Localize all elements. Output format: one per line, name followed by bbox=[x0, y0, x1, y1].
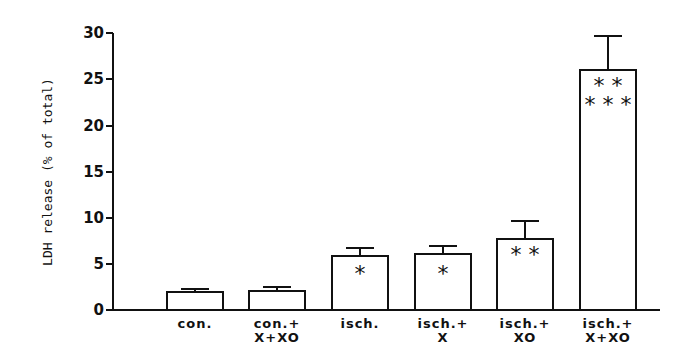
y-tick-label: 25 bbox=[83, 70, 104, 88]
bars bbox=[167, 70, 636, 310]
y-tick-label: 10 bbox=[83, 209, 104, 227]
x-tick-label: X+XO bbox=[585, 330, 631, 345]
x-tick-label: isch.+ bbox=[500, 316, 551, 331]
significance-marker: * bbox=[355, 261, 366, 286]
y-axis-label: LDH release (% of total) bbox=[40, 78, 55, 266]
x-tick-label: XO bbox=[514, 330, 537, 345]
y-tick-label: 0 bbox=[94, 301, 104, 319]
significance-marker: * bbox=[438, 261, 449, 286]
x-tick-label: isch. bbox=[340, 316, 379, 331]
y-tick-label: 30 bbox=[83, 24, 104, 42]
y-tick-label: 5 bbox=[94, 255, 104, 273]
bar-chart: 0 5 10 15 20 25 30 LDH release (% of tot… bbox=[0, 0, 695, 364]
y-tick-label: 15 bbox=[83, 163, 104, 181]
x-tick-label: con.+ bbox=[254, 316, 301, 331]
x-tick-label: X bbox=[437, 330, 448, 345]
y-tick-label: 20 bbox=[83, 117, 104, 135]
significance-marker: * * bbox=[511, 242, 540, 267]
bar-con-x-xo bbox=[249, 291, 305, 310]
x-tick-label: isch.+ bbox=[583, 316, 634, 331]
y-ticks bbox=[106, 33, 113, 310]
bar-con bbox=[167, 292, 223, 310]
x-tick-label: con. bbox=[178, 316, 213, 331]
x-tick-labels: con. con.+ X+XO isch. isch.+ X isch.+ XO… bbox=[178, 316, 634, 345]
y-tick-labels: 0 5 10 15 20 25 30 bbox=[83, 24, 104, 319]
significance-marker: * * * bbox=[585, 92, 632, 117]
x-tick-label: X+XO bbox=[254, 330, 300, 345]
x-tick-label: isch.+ bbox=[418, 316, 469, 331]
error-bars bbox=[181, 36, 622, 292]
